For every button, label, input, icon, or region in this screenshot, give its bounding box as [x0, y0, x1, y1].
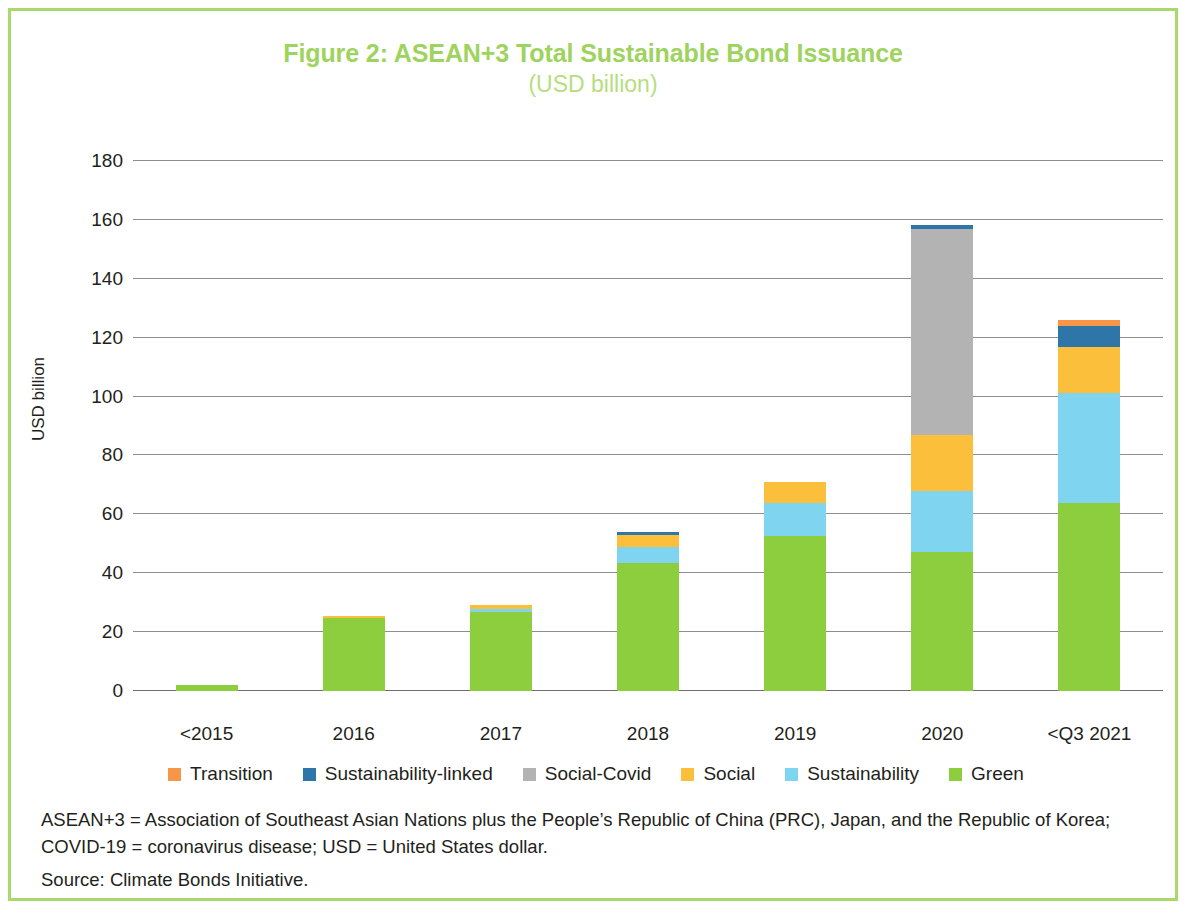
bar-group	[911, 161, 973, 691]
bar-group	[617, 161, 679, 691]
legend-label: Social	[703, 763, 755, 785]
legend-item[interactable]: Transition	[168, 763, 273, 785]
bar-segment-green[interactable]	[617, 563, 679, 691]
bar-segment-green[interactable]	[176, 685, 238, 691]
legend-label: Sustainability-linked	[325, 763, 493, 785]
bar-segment-green[interactable]	[323, 618, 385, 691]
legend-swatch-icon	[785, 768, 798, 781]
bar-segment-green[interactable]	[1058, 503, 1120, 691]
stacked-bar[interactable]	[764, 482, 826, 691]
bar-segment-social[interactable]	[470, 605, 532, 609]
bar-segment-sustainability[interactable]	[617, 547, 679, 563]
y-axis-tick-label: 60	[43, 503, 123, 525]
x-axis-tick-label: <Q3 2021	[1047, 723, 1131, 745]
y-axis-tick-label: 140	[43, 268, 123, 290]
legend-label: Green	[971, 763, 1024, 785]
stacked-bar[interactable]	[176, 685, 238, 691]
y-axis-tick-label: 160	[43, 209, 123, 231]
bar-segment-sustainability-linked[interactable]	[911, 225, 973, 229]
x-axis-tick-label: 2017	[480, 723, 522, 745]
bar-segment-sustainability[interactable]	[911, 491, 973, 552]
stacked-bar[interactable]	[617, 532, 679, 691]
bar-group	[323, 161, 385, 691]
x-axis-tick-label: 2019	[774, 723, 816, 745]
legend-item[interactable]: Sustainability	[785, 763, 919, 785]
bar-segment-sustainability-linked[interactable]	[617, 532, 679, 535]
y-axis-tick-label: 0	[43, 680, 123, 702]
plot-area: USD billion 020406080100120140160180 <20…	[11, 139, 1181, 739]
x-axis-tick-label: 2016	[333, 723, 375, 745]
bar-segment-sustainability[interactable]	[1058, 393, 1120, 503]
legend-item[interactable]: Sustainability-linked	[303, 763, 493, 785]
legend-label: Social-Covid	[545, 763, 652, 785]
y-axis-tick-label: 20	[43, 621, 123, 643]
bar-group	[1058, 161, 1120, 691]
stacked-bar[interactable]	[323, 617, 385, 691]
bar-segment-social[interactable]	[764, 482, 826, 503]
figure-notes: ASEAN+3 = Association of Southeast Asian…	[41, 807, 1156, 893]
bar-segment-green[interactable]	[470, 612, 532, 692]
x-axis-tick-label: 2018	[627, 723, 669, 745]
bar-segment-transition[interactable]	[1058, 320, 1120, 326]
bars-layer	[133, 161, 1163, 691]
bar-group	[176, 161, 238, 691]
chart-legend: TransitionSustainability-linkedSocial-Co…	[11, 763, 1181, 785]
bar-segment-sustainability[interactable]	[470, 609, 532, 612]
bar-segment-sustainability-linked[interactable]	[1058, 326, 1120, 347]
stacked-bar[interactable]	[911, 225, 973, 691]
legend-label: Sustainability	[807, 763, 919, 785]
y-axis-tick-label: 100	[43, 386, 123, 408]
title-block: Figure 2: ASEAN+3 Total Sustainable Bond…	[11, 39, 1175, 99]
grid-area: 020406080100120140160180 <20152016201720…	[133, 161, 1163, 691]
stacked-bar[interactable]	[470, 605, 532, 691]
legend-swatch-icon	[523, 768, 536, 781]
bar-segment-green[interactable]	[911, 552, 973, 691]
bar-segment-social[interactable]	[617, 535, 679, 547]
stacked-bar[interactable]	[1058, 320, 1120, 691]
y-axis-tick-label: 80	[43, 444, 123, 466]
legend-swatch-icon	[681, 768, 694, 781]
legend-item[interactable]: Green	[949, 763, 1024, 785]
x-axis-tick-label: <2015	[180, 723, 233, 745]
legend-swatch-icon	[303, 768, 316, 781]
bar-segment-green[interactable]	[764, 536, 826, 691]
legend-item[interactable]: Social	[681, 763, 755, 785]
figure-title: Figure 2: ASEAN+3 Total Sustainable Bond…	[11, 39, 1175, 68]
y-axis-tick-label: 180	[43, 150, 123, 172]
figure-frame: Figure 2: ASEAN+3 Total Sustainable Bond…	[8, 8, 1178, 901]
figure-subtitle: (USD billion)	[11, 70, 1175, 99]
bar-segment-social[interactable]	[323, 616, 385, 618]
bar-segment-social[interactable]	[911, 435, 973, 491]
x-axis-tick-label: 2020	[921, 723, 963, 745]
bar-segment-sustainability[interactable]	[764, 503, 826, 537]
legend-item[interactable]: Social-Covid	[523, 763, 652, 785]
bar-segment-social-covid[interactable]	[911, 229, 973, 435]
bar-group	[470, 161, 532, 691]
legend-swatch-icon	[168, 768, 181, 781]
legend-label: Transition	[190, 763, 273, 785]
note-definition: ASEAN+3 = Association of Southeast Asian…	[41, 807, 1156, 861]
y-axis-tick-label: 40	[43, 562, 123, 584]
bar-group	[764, 161, 826, 691]
note-source: Source: Climate Bonds Initiative.	[41, 867, 1156, 894]
y-axis-tick-label: 120	[43, 327, 123, 349]
legend-swatch-icon	[949, 768, 962, 781]
bar-segment-social[interactable]	[1058, 347, 1120, 394]
